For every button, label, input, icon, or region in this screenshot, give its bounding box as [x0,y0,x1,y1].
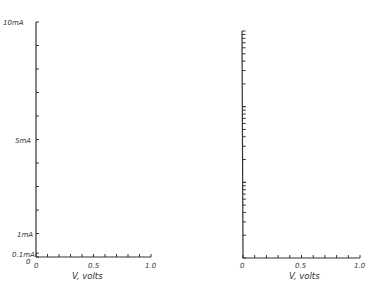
left-y-label-1ma: 1mA [17,231,33,239]
left-y-label-5ma: 5mA [15,137,31,145]
left-chart: 10mA 5mA 1mA 0.1mA 0 0 0.5 1.0 V, volts [3,19,157,281]
left-y-label-0: 0 [26,258,31,266]
left-x-label-0: 0 [34,262,39,270]
left-x-axis-title: V, volts [72,271,103,281]
right-x-label-0: 0 [240,262,245,270]
left-x-label-1.0: 1.0 [145,262,157,270]
left-y-label-10ma: 10mA [3,19,24,27]
left-y-label-0.1ma: 0.1mA [12,251,35,259]
right-x-axis-title: V, volts [289,271,320,281]
right-y-axis [242,31,243,258]
charts-canvas: 10mA 5mA 1mA 0.1mA 0 0 0.5 1.0 V, volts … [0,0,373,287]
right-x-label-0.5: 0.5 [295,262,307,270]
left-x-label-0.5: 0.5 [88,262,100,270]
right-chart: 0 0.5 1.0 V, volts [240,31,366,281]
right-x-label-1.0: 1.0 [354,262,366,270]
